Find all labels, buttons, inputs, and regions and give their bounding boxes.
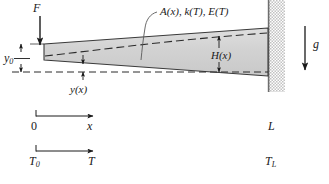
diagram-canvas — [0, 0, 329, 184]
y0-dimension — [14, 44, 44, 72]
wall-support — [268, 0, 285, 92]
deflection-curve-label: y(x) — [70, 84, 87, 95]
end-temperature-label: TL — [265, 155, 276, 169]
temperature-axis-label: T — [88, 155, 95, 167]
x-axis-label: x — [87, 120, 92, 132]
beam-diagram-figure: F y0 y(x) A(x), k(T), E(T) H(x) g 0 x T0… — [0, 0, 329, 184]
length-label: L — [268, 120, 275, 132]
origin-label: 0 — [31, 120, 37, 132]
x-axis — [36, 110, 93, 117]
gravity-label: g — [313, 38, 319, 50]
force-label: F — [33, 2, 40, 14]
tapered-beam — [44, 28, 268, 76]
start-temperature-label: T0 — [29, 155, 40, 169]
temperature-axis — [36, 145, 93, 152]
beam-properties-label: A(x), k(T), E(T) — [160, 6, 228, 17]
tip-deflection-label: y0 — [4, 52, 13, 66]
beam-height-label: H(x) — [211, 50, 231, 61]
